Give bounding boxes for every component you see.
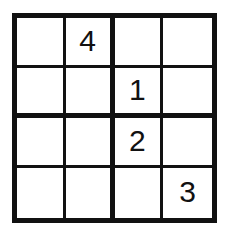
sudoku-cell-r3c2[interactable] [66, 118, 115, 168]
sudoku-cell-r2c1[interactable] [17, 68, 66, 118]
sudoku-cell-r4c4[interactable]: 3 [163, 168, 212, 218]
sudoku-cell-r1c3[interactable] [115, 18, 164, 68]
sudoku-cell-r2c2[interactable] [66, 68, 115, 118]
sudoku-cell-r3c3[interactable]: 2 [115, 118, 164, 168]
sudoku-cell-r3c4[interactable] [163, 118, 212, 168]
sudoku-cell-r1c2[interactable]: 4 [66, 18, 115, 68]
sudoku-cell-r4c2[interactable] [66, 168, 115, 218]
sudoku-cell-r4c1[interactable] [17, 168, 66, 218]
sudoku-grid: 4 1 2 [12, 13, 217, 223]
puzzle-container: 4 1 2 [0, 0, 227, 237]
sudoku-cell-r2c3[interactable]: 1 [115, 68, 164, 118]
cell-value: 1 [129, 75, 146, 105]
sudoku-cell-r1c4[interactable] [163, 18, 212, 68]
cell-value: 4 [79, 26, 96, 56]
sudoku-cell-r3c1[interactable] [17, 118, 66, 168]
sudoku-cell-r4c3[interactable] [115, 168, 164, 218]
sudoku-cell-r1c1[interactable] [17, 18, 66, 68]
cell-value: 2 [129, 126, 146, 156]
cell-value: 3 [179, 177, 196, 207]
sudoku-cell-r2c4[interactable] [163, 68, 212, 118]
